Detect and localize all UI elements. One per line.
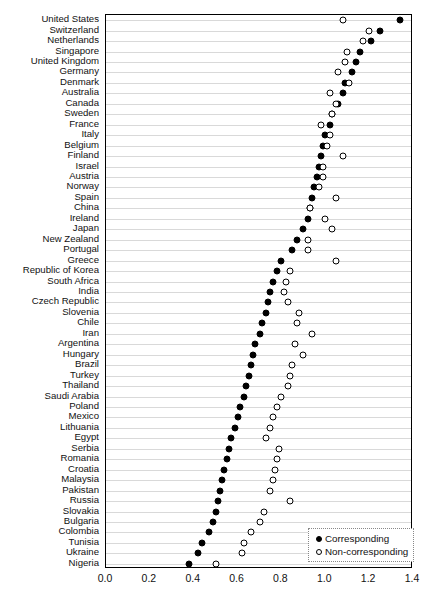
data-point-non-corresponding [346,79,353,86]
data-point-non-corresponding [344,48,351,55]
data-point-corresponding [243,383,250,390]
legend-label-corresponding: Corresponding [325,533,389,544]
data-point-corresponding [186,560,193,567]
gridline [106,250,411,251]
gridline [106,125,411,126]
data-point-non-corresponding [335,69,342,76]
data-point-non-corresponding [300,351,307,358]
x-tick-label: 1.0 [317,572,332,584]
data-point-non-corresponding [285,299,292,306]
gridline [106,282,411,283]
gridline [106,62,411,63]
data-point-corresponding [219,477,226,484]
gridline [106,313,411,314]
data-point-corresponding [232,424,239,431]
data-point-corresponding [289,247,296,254]
data-point-non-corresponding [212,560,219,567]
data-point-corresponding [258,320,265,327]
data-point-corresponding [247,362,254,369]
data-point-non-corresponding [267,487,274,494]
data-point-corresponding [339,90,346,97]
data-point-corresponding [214,498,221,505]
gridline [106,512,411,513]
data-point-non-corresponding [247,529,254,536]
gridline [106,355,411,356]
data-point-non-corresponding [289,362,296,369]
data-point-corresponding [256,330,263,337]
x-tick-label: 1.4 [405,572,420,584]
chart-legend: Corresponding Non-corresponding [308,528,414,562]
data-point-non-corresponding [287,498,294,505]
data-point-non-corresponding [269,414,276,421]
data-point-non-corresponding [359,38,366,45]
legend-item-non-corresponding: Non-corresponding [313,545,408,558]
gridline [106,365,411,366]
gridline [106,480,411,481]
data-point-non-corresponding [280,289,287,296]
data-point-non-corresponding [287,268,294,275]
gridline [106,83,411,84]
gridline [106,459,411,460]
data-point-non-corresponding [276,445,283,452]
open-circle-icon [313,546,325,558]
data-point-non-corresponding [366,27,373,34]
data-point-corresponding [267,289,274,296]
data-point-corresponding [245,372,252,379]
gridline [106,72,411,73]
data-point-non-corresponding [291,341,298,348]
data-point-corresponding [252,341,259,348]
data-point-corresponding [326,121,333,128]
data-point-corresponding [227,435,234,442]
data-point-corresponding [206,529,213,536]
gridline [106,376,411,377]
data-point-non-corresponding [287,372,294,379]
data-point-non-corresponding [304,236,311,243]
plot-area [105,14,412,568]
gridline [106,449,411,450]
data-point-corresponding [396,17,403,24]
data-point-non-corresponding [320,163,327,170]
data-point-non-corresponding [317,121,324,128]
data-point-corresponding [263,309,270,316]
gridline [106,135,411,136]
data-point-corresponding [357,48,364,55]
gridline [106,52,411,53]
data-point-corresponding [348,69,355,76]
gridline [106,104,411,105]
data-point-non-corresponding [328,226,335,233]
data-point-corresponding [223,456,230,463]
gridline [106,417,411,418]
data-point-corresponding [249,351,256,358]
x-tick-label: 0.6 [229,572,244,584]
data-point-corresponding [265,299,272,306]
data-point-corresponding [352,59,359,66]
gridline [106,156,411,157]
data-point-non-corresponding [274,456,281,463]
category-axis-labels: United StatesSwitzerlandNetherlandsSinga… [0,14,102,568]
data-point-non-corresponding [256,518,263,525]
gridline [106,177,411,178]
data-point-non-corresponding [326,132,333,139]
gridline [106,564,411,565]
gridline [106,491,411,492]
data-point-corresponding [269,278,276,285]
data-point-non-corresponding [320,174,327,181]
data-point-non-corresponding [342,59,349,66]
x-tick-label: 0.0 [98,572,113,584]
filled-circle-icon [313,533,325,545]
gridline [106,20,411,21]
data-point-non-corresponding [333,194,340,201]
gridline [106,292,411,293]
data-point-corresponding [212,508,219,515]
gridline [106,219,411,220]
x-tick-label: 0.2 [142,572,157,584]
legend-item-corresponding: Corresponding [313,532,408,545]
data-point-corresponding [225,445,232,452]
data-point-corresponding [300,226,307,233]
data-point-non-corresponding [282,278,289,285]
dot-plot-figure: United StatesSwitzerlandNetherlandsSinga… [0,0,424,601]
x-tick-label: 1.2 [361,572,376,584]
data-point-non-corresponding [304,247,311,254]
data-point-non-corresponding [295,309,302,316]
data-point-corresponding [317,153,324,160]
